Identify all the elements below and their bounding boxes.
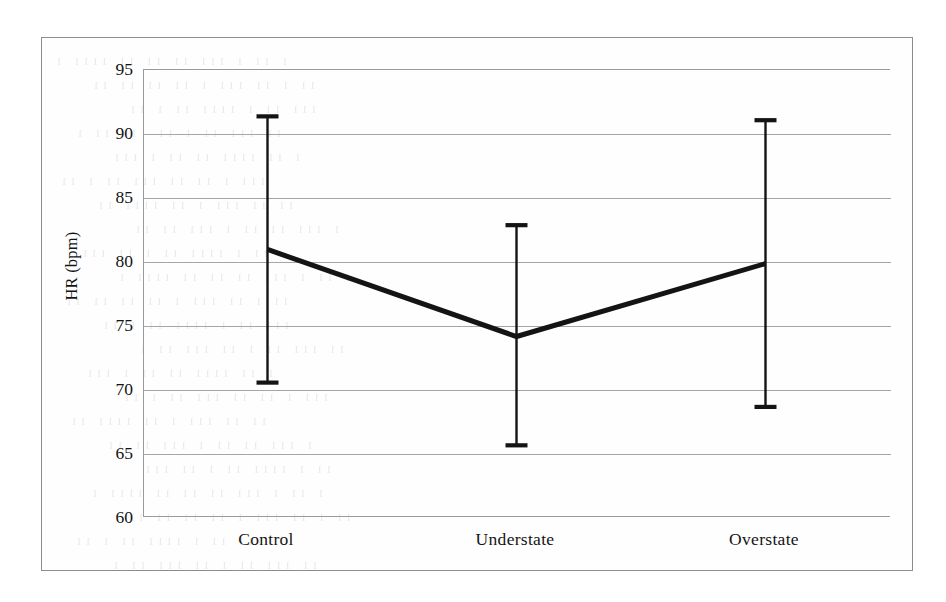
y-tick-label: 85 xyxy=(83,189,133,207)
y-tick-label: 70 xyxy=(83,381,133,399)
x-tick-label-understate: Understate xyxy=(415,529,615,550)
y-tick-label: 75 xyxy=(83,317,133,335)
line-chart: 95 90 85 80 75 70 65 60 HR (bpm) Control… xyxy=(0,0,946,602)
x-tick-label-control: Control xyxy=(166,529,366,550)
y-axis-title: HR (bpm) xyxy=(62,186,82,346)
x-tick-label-overstate: Overstate xyxy=(664,529,864,550)
y-tick-label: 60 xyxy=(83,509,133,527)
y-tick-label: 80 xyxy=(83,253,133,271)
y-tick-label: 65 xyxy=(83,445,133,463)
y-tick-label: 90 xyxy=(83,125,133,143)
y-axis-tick-labels: 95 90 85 80 75 70 65 60 xyxy=(0,0,946,602)
y-tick-label: 95 xyxy=(83,61,133,79)
